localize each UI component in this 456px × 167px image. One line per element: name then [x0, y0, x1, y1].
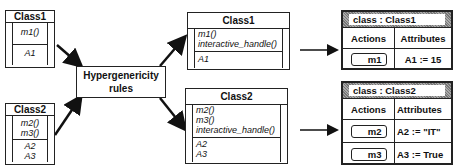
action-cell: m3 [343, 143, 395, 165]
method: m3() [13, 128, 47, 138]
attribute: A1 [13, 48, 47, 58]
attributes-section: A2 A3 [192, 138, 281, 162]
attribute: A2 [13, 141, 47, 151]
method: interactive_handle() [198, 39, 282, 49]
class-name: Class1 [6, 11, 54, 23]
generated-class1-box: Class1 m1() interactive_handle() A1 [187, 12, 290, 70]
source-class2-box: Class2 m2() m3() A2 A3 [5, 103, 55, 165]
action-button-m3[interactable]: m3 [351, 148, 387, 161]
action-cell: m2 [343, 120, 395, 143]
hypergenericity-rules-box: Hypergenericity rules [76, 66, 166, 98]
attribute-value: A1 := 15 [395, 49, 451, 69]
generated-class2-box: Class2 m2() m3() interactive_handle() A2… [185, 88, 288, 164]
instance-panel-class2: class : Class2 Actions Attributes m2 A2 … [341, 81, 453, 165]
method: m1() [13, 27, 47, 37]
attributes-header: Attributes [395, 28, 451, 49]
attribute: A3 [13, 151, 47, 161]
attributes-header: Attributes [395, 99, 451, 120]
attribute: A3 [196, 149, 280, 159]
methods-section: m1() [12, 23, 48, 45]
method: m3() [196, 115, 280, 125]
source-class1-box: Class1 m1() A1 [5, 10, 55, 68]
panel-title: class : Class1 [349, 14, 445, 25]
methods-section: m1() interactive_handle() [194, 29, 283, 52]
panel-title: class : Class2 [349, 85, 445, 96]
rules-label-line2: rules [109, 82, 133, 95]
action-button-m2[interactable]: m2 [351, 125, 387, 138]
method: m2() [196, 105, 280, 115]
methods-section: m2() m3() [12, 116, 48, 140]
attribute: A1 [198, 54, 282, 64]
attribute-value: A2 := "IT" [395, 120, 451, 143]
class-name: Class1 [188, 13, 289, 29]
actions-header: Actions [343, 99, 395, 120]
action-button-m1[interactable]: m1 [351, 53, 387, 66]
panel-header: class : Class2 [343, 83, 451, 99]
actions-header: Actions [343, 28, 395, 49]
attribute-value: A3 := True [395, 143, 451, 165]
class-name: Class2 [6, 104, 54, 116]
method: m1() [198, 29, 282, 39]
methods-section: m2() m3() interactive_handle() [192, 105, 281, 138]
attributes-section: A1 [194, 52, 283, 68]
attributes-section: A1 [12, 45, 48, 65]
method: m2() [13, 118, 47, 128]
panel-header: class : Class1 [343, 12, 451, 28]
rules-label-line1: Hypergenericity [83, 69, 159, 82]
method: interactive_handle() [196, 125, 280, 135]
instance-panel-class1: class : Class1 Actions Attributes m1 A1 … [341, 10, 453, 70]
class-name: Class2 [186, 89, 287, 105]
action-cell: m1 [343, 49, 395, 69]
attributes-section: A2 A3 [12, 140, 48, 162]
attribute: A2 [196, 139, 280, 149]
